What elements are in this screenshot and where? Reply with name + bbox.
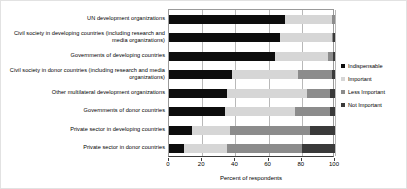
- bar-segment: [332, 15, 335, 24]
- legend-swatch-icon: [341, 90, 345, 94]
- legend-item[interactable]: Important: [341, 72, 405, 85]
- bar-segment: [169, 70, 232, 79]
- bar-row: [169, 15, 333, 24]
- bar-segment: [230, 126, 310, 135]
- bar-segment: [333, 33, 335, 42]
- bar-segment: [310, 126, 335, 135]
- bar-row: [169, 107, 333, 116]
- bar-segment: [295, 107, 330, 116]
- chart-figure: UN development organizationsCivil societ…: [0, 0, 407, 189]
- legend-item[interactable]: Less Important: [341, 85, 405, 98]
- bar-segment: [169, 15, 285, 24]
- bar-segment: [169, 126, 192, 135]
- x-axis-tick-label: 80: [297, 161, 304, 167]
- bar-segment: [169, 33, 280, 42]
- bar-row: [169, 70, 333, 79]
- bar-segment: [330, 89, 335, 98]
- bar-segment: [169, 107, 225, 116]
- legend-item[interactable]: Indispensable: [341, 59, 405, 72]
- gridline: [335, 10, 336, 156]
- x-axis-title: Percent of respondents: [168, 175, 334, 181]
- legend-label: Important: [348, 76, 372, 82]
- x-axis-tick-label: 60: [264, 161, 271, 167]
- bar-segment: [184, 144, 227, 153]
- category-label: Civil society in donor countries (includ…: [7, 67, 165, 80]
- category-label: UN development organizations: [7, 15, 165, 22]
- bar-segment: [333, 52, 335, 61]
- bar-row: [169, 89, 333, 98]
- x-axis-tick-label: 100: [329, 161, 339, 167]
- bar-segment: [275, 52, 328, 61]
- bar-segment: [298, 70, 331, 79]
- category-label: Governments of developing countries: [7, 52, 165, 59]
- legend-label: Not Important: [348, 102, 382, 108]
- bar-segment: [169, 144, 184, 153]
- bar-segment: [227, 89, 307, 98]
- bar-segment: [227, 144, 302, 153]
- x-axis: 020406080100: [168, 158, 334, 172]
- bar-row: [169, 144, 333, 153]
- x-axis-tick-label: 0: [166, 161, 169, 167]
- chart-legend: IndispensableImportantLess ImportantNot …: [341, 59, 405, 111]
- legend-swatch-icon: [341, 77, 345, 81]
- legend-swatch-icon: [341, 64, 345, 68]
- bar-segment: [307, 89, 330, 98]
- bar-segment: [330, 107, 335, 116]
- category-label: Private sector in developing countries: [7, 126, 165, 133]
- bar-segment: [192, 126, 230, 135]
- legend-label: Indispensable: [348, 63, 383, 69]
- bar-row: [169, 126, 333, 135]
- bar-segment: [285, 15, 331, 24]
- legend-item[interactable]: Not Important: [341, 98, 405, 111]
- category-label: Private sector in donor countries: [7, 144, 165, 151]
- category-label: Other multilateral development organizat…: [7, 89, 165, 96]
- legend-label: Less Important: [348, 89, 385, 95]
- category-label: Governments of donor countries: [7, 107, 165, 114]
- bar-segment: [302, 144, 335, 153]
- category-label: Civil society in developing countries (i…: [7, 30, 165, 43]
- bar-row: [169, 33, 333, 42]
- bar-segment: [169, 52, 275, 61]
- x-axis-tick-label: 40: [231, 161, 238, 167]
- bar-segment: [169, 89, 227, 98]
- bar-segment: [225, 107, 295, 116]
- category-axis-labels: UN development organizationsCivil societ…: [5, 9, 165, 157]
- bar-row: [169, 52, 333, 61]
- plot-area: [168, 9, 334, 157]
- legend-swatch-icon: [341, 103, 345, 107]
- x-axis-tick-label: 20: [198, 161, 205, 167]
- bar-segment: [280, 33, 331, 42]
- bar-segment: [332, 70, 335, 79]
- bar-segment: [232, 70, 298, 79]
